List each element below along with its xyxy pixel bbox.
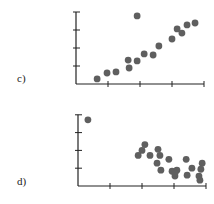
data-point [189,165,196,172]
data-point [172,170,179,177]
data-point [157,167,164,174]
data-point [126,65,133,72]
data-point [184,22,191,29]
data-point [104,70,111,77]
data-point [147,152,154,159]
data-point [183,156,190,163]
data-point [184,172,191,179]
data-point [141,51,148,58]
data-point [197,177,204,184]
data-point [134,58,141,65]
data-point [165,156,172,163]
scatter-plot-d [75,115,206,189]
data-point [155,146,162,153]
data-point [169,36,176,43]
data-point [134,13,141,20]
scatter-plot-c [73,12,204,87]
data-point [85,116,92,123]
figure [0,0,214,204]
data-point [94,76,101,83]
panel-label-c: c) [17,73,26,84]
data-point [197,166,204,173]
data-point [155,43,162,50]
data-point [150,52,157,59]
data-point [157,152,164,159]
data-point [135,152,142,159]
data-point [141,141,148,148]
data-point [154,160,161,167]
panel-label-d: d) [17,176,26,187]
data-point [125,57,132,64]
data-point [179,30,186,37]
data-point [199,160,206,167]
data-point [192,20,199,27]
data-point [113,69,120,76]
